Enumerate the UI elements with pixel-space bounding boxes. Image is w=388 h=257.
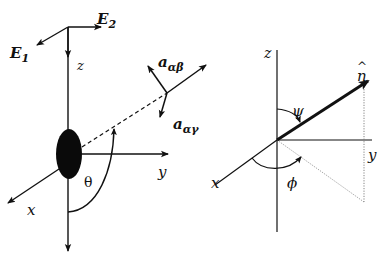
n-hat-vector	[277, 81, 368, 140]
e1-arrow	[37, 27, 68, 45]
molecule-ellipse	[56, 129, 82, 179]
label-z-right: z	[263, 45, 272, 61]
right-panel: z n ^ ψ y x ϕ	[211, 45, 377, 232]
label-y-right: y	[367, 146, 377, 164]
label-e1: E1	[9, 44, 29, 65]
label-x-right: x	[211, 174, 220, 192]
label-y-left: y	[157, 163, 167, 181]
label-a-alpha-beta: aαβ	[158, 53, 184, 74]
label-z-left: z	[76, 58, 84, 73]
x-axis-right	[215, 140, 277, 185]
label-phi: ϕ	[287, 174, 297, 192]
x-axis	[8, 167, 62, 203]
label-a-alpha-gamma: aαγ	[173, 115, 199, 136]
label-theta: θ	[84, 174, 92, 190]
label-x-left: x	[27, 201, 36, 219]
label-n-hat-accent: ^	[357, 60, 367, 74]
label-psi: ψ	[292, 102, 304, 120]
left-panel: E2 E1 z aαβ aαγ y x θ	[8, 10, 206, 251]
label-e2: E2	[96, 10, 116, 31]
projection-diagonal-dotted	[277, 140, 364, 202]
dashed-direction-line	[82, 93, 167, 147]
diagram-canvas: E2 E1 z aαβ aαγ y x θ z n ^ ψ y x ϕ	[0, 0, 388, 257]
